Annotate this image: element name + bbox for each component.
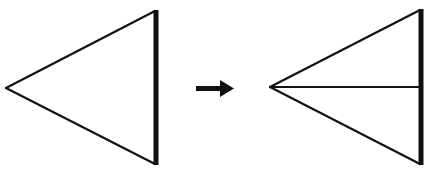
right-triangle-upper-edge bbox=[270, 10, 420, 87]
left-triangle bbox=[6, 10, 156, 165]
diagram-canvas bbox=[0, 0, 433, 170]
arrow-right-icon bbox=[196, 80, 234, 97]
left-triangle-lower-edge bbox=[6, 88, 155, 164]
right-triangle-lower-edge bbox=[270, 87, 420, 164]
diagram-svg bbox=[0, 0, 433, 170]
arrow-head bbox=[220, 80, 234, 97]
left-triangle-upper-edge bbox=[6, 11, 155, 88]
right-triangle bbox=[270, 9, 421, 165]
